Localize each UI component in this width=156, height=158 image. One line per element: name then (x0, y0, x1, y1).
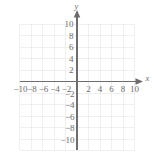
x-tick-label: −10 (13, 84, 28, 94)
x-axis-label: x (145, 73, 150, 83)
y-tick-label: −10 (60, 135, 75, 145)
y-tick-label: 2 (69, 65, 74, 75)
y-axis-label: y (74, 1, 79, 11)
axis-lines (20, 15, 139, 151)
x-tick-label: 8 (121, 84, 126, 94)
x-tick-label: −8 (27, 84, 37, 94)
x-tick-label: 2 (86, 84, 91, 94)
x-tick-label: 10 (130, 84, 140, 94)
y-tick-label: 10 (65, 19, 75, 29)
y-axis-arrowhead (74, 10, 81, 18)
y-tick-label: −4 (65, 100, 75, 110)
y-tick-label: 6 (69, 42, 74, 52)
y-tick-label: −2 (65, 89, 75, 99)
coordinate-plane-figure: x y −10 −8 −6 −4 −2 2 4 6 8 10 10 8 6 4 … (0, 0, 156, 158)
x-tick-label: 6 (109, 84, 114, 94)
y-tick-label: 4 (69, 54, 74, 64)
x-tick-label: −6 (39, 84, 49, 94)
coordinate-grid-svg: x y −10 −8 −6 −4 −2 2 4 6 8 10 10 8 6 4 … (0, 0, 156, 158)
x-tick-label: −4 (50, 84, 60, 94)
x-tick-label: 4 (98, 84, 103, 94)
y-tick-label: 8 (69, 31, 74, 41)
y-tick-label: −8 (65, 123, 75, 133)
y-tick-label: −6 (65, 112, 75, 122)
